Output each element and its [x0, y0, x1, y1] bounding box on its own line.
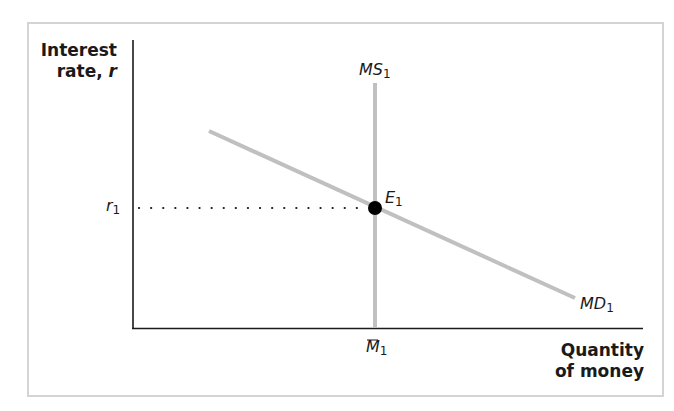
y-tick-r1: r1: [106, 196, 120, 217]
m-tick-name: M: [366, 337, 380, 356]
y-axis-var: r: [109, 61, 117, 81]
x-axis-title-line1: Quantity: [540, 340, 644, 361]
money-demand-label: MD1: [580, 294, 614, 315]
y-axis-title-word2: rate, r: [40, 61, 117, 82]
money-demand-curve: [209, 131, 575, 298]
x-tick-m1: M1: [366, 337, 387, 358]
ms-name: MS: [359, 60, 383, 79]
eq-name: E: [385, 188, 395, 207]
r-tick-name: r: [106, 196, 113, 215]
md-name: MD: [580, 294, 606, 313]
equilibrium-label: E1: [385, 188, 403, 209]
y-axis-title-word1: Interest: [40, 40, 117, 61]
y-axis-title: Interest rate, Interest rate, r: [40, 40, 117, 82]
r-tick-sub: 1: [113, 203, 121, 217]
x-axis-title-line2: of money: [540, 361, 644, 382]
money-supply-label: MS1: [359, 60, 391, 81]
x-axis-title: Quantity of money: [540, 340, 644, 382]
eq-sub: 1: [395, 195, 403, 209]
md-sub: 1: [606, 301, 614, 315]
m-tick-sub: 1: [380, 344, 388, 358]
equilibrium-point: [368, 201, 382, 215]
ms-sub: 1: [383, 67, 391, 81]
